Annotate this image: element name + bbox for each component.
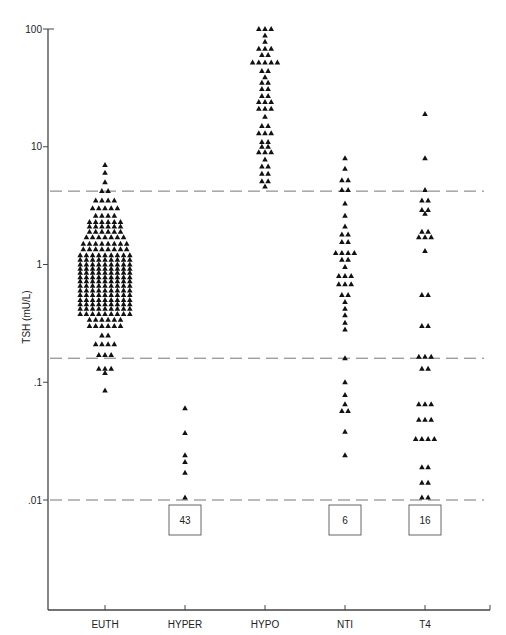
triangle-marker xyxy=(115,252,121,257)
triangle-marker xyxy=(77,283,83,288)
triangle-marker xyxy=(428,234,434,239)
triangle-marker xyxy=(345,250,351,255)
triangle-marker xyxy=(336,273,342,278)
triangle-marker xyxy=(419,436,425,441)
triangle-marker xyxy=(108,297,114,302)
triangle-marker xyxy=(428,401,434,406)
triangle-marker xyxy=(250,59,256,64)
triangle-marker xyxy=(77,306,83,311)
triangle-marker xyxy=(118,323,124,328)
triangle-marker xyxy=(112,224,118,229)
triangle-marker xyxy=(259,171,265,176)
triangle-marker xyxy=(90,262,96,267)
triangle-marker xyxy=(345,408,351,413)
triangle-marker xyxy=(102,179,108,184)
triangle-marker xyxy=(99,241,105,246)
triangle-marker xyxy=(87,229,93,234)
triangle-marker xyxy=(105,197,111,202)
triangle-marker xyxy=(342,379,348,384)
triangle-marker xyxy=(118,224,124,229)
triangle-marker xyxy=(112,229,118,234)
triangle-marker xyxy=(339,231,345,236)
triangle-marker xyxy=(127,292,133,297)
triangle-marker xyxy=(105,219,111,224)
triangle-marker xyxy=(333,250,339,255)
triangle-marker xyxy=(265,139,271,144)
triangle-marker xyxy=(102,170,108,175)
triangle-marker xyxy=(268,106,274,111)
y-tick-label: 10 xyxy=(31,141,43,152)
triangle-marker xyxy=(121,283,127,288)
triangle-marker xyxy=(96,252,102,257)
triangle-marker xyxy=(84,283,90,288)
triangle-marker xyxy=(342,392,348,397)
triangle-marker xyxy=(102,257,108,262)
triangle-marker xyxy=(342,306,348,311)
triangle-marker xyxy=(102,234,108,239)
triangle-marker xyxy=(81,246,87,251)
triangle-marker xyxy=(262,26,268,31)
triangle-marker xyxy=(419,366,425,371)
triangle-marker xyxy=(112,323,118,328)
triangle-marker xyxy=(121,288,127,293)
triangle-marker xyxy=(127,257,133,262)
triangle-marker xyxy=(259,86,265,91)
triangle-marker xyxy=(84,301,90,306)
triangle-marker xyxy=(108,292,114,297)
triangle-marker xyxy=(182,430,188,435)
triangle-marker xyxy=(265,52,271,57)
triangle-marker xyxy=(90,252,96,257)
triangle-marker xyxy=(342,200,348,205)
triangle-marker xyxy=(108,301,114,306)
triangle-marker xyxy=(115,297,121,302)
triangle-marker xyxy=(262,130,268,135)
triangle-marker xyxy=(127,252,133,257)
triangle-marker xyxy=(127,306,133,311)
triangle-marker xyxy=(77,297,83,302)
triangle-marker xyxy=(121,297,127,302)
triangle-marker xyxy=(259,144,265,149)
triangle-marker xyxy=(77,288,83,293)
triangle-marker xyxy=(99,317,105,322)
y-tick-label: .01 xyxy=(28,495,42,506)
triangle-marker xyxy=(425,436,431,441)
triangle-marker xyxy=(118,241,124,246)
triangle-marker xyxy=(93,213,99,218)
triangle-marker xyxy=(256,106,262,111)
triangle-marker xyxy=(259,163,265,168)
triangle-marker xyxy=(416,354,422,359)
triangle-marker xyxy=(262,156,268,161)
triangle-marker xyxy=(87,219,93,224)
triangle-marker xyxy=(96,297,102,302)
triangle-marker xyxy=(259,80,265,85)
triangle-marker xyxy=(112,341,118,346)
triangle-marker xyxy=(84,288,90,293)
triangle-marker xyxy=(416,401,422,406)
triangle-marker xyxy=(419,495,425,500)
triangle-marker xyxy=(265,163,271,168)
triangle-marker xyxy=(268,149,274,154)
triangle-marker xyxy=(262,74,268,79)
triangle-marker xyxy=(93,224,99,229)
triangle-marker xyxy=(265,178,271,183)
y-tick-label: 100 xyxy=(25,24,42,35)
triangle-marker xyxy=(342,273,348,278)
triangle-marker xyxy=(105,229,111,234)
triangle-marker xyxy=(108,288,114,293)
triangle-marker xyxy=(268,26,274,31)
triangle-marker xyxy=(419,480,425,485)
triangle-marker xyxy=(102,252,108,257)
triangle-marker xyxy=(112,241,118,246)
triangle-marker xyxy=(84,252,90,257)
data-points xyxy=(77,26,437,500)
y-tick-label: .1 xyxy=(34,377,43,388)
triangle-marker xyxy=(115,306,121,311)
triangle-marker xyxy=(118,317,124,322)
triangle-marker xyxy=(121,262,127,267)
triangle-marker xyxy=(342,401,348,406)
triangle-marker xyxy=(99,332,105,337)
triangle-marker xyxy=(90,292,96,297)
triangle-marker xyxy=(115,262,121,267)
triangle-marker xyxy=(105,246,111,251)
triangle-marker xyxy=(90,311,96,316)
